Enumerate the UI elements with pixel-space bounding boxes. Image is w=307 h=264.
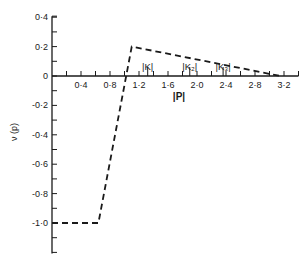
y-tick-label: 0: [43, 71, 48, 81]
x-tick-label: 1·6: [161, 80, 174, 90]
x-tick-label: 2·0: [190, 80, 203, 90]
y-tick-label: -0·6: [32, 159, 48, 169]
x-tick-label: 0·4: [74, 80, 87, 90]
y-tick-label: -0·2: [32, 100, 48, 110]
x-tick-label: 1·2: [132, 80, 145, 90]
y-tick-label: -1·0: [32, 218, 48, 228]
y-tick-label: -0·4: [32, 130, 48, 140]
x-tick-label: 0·8: [103, 80, 116, 90]
annotations: |K||K₂||K₃|: [142, 61, 231, 76]
y-tick-label: 0·4: [35, 12, 48, 22]
data-series: [52, 47, 280, 223]
x-tick-label: 2·4: [219, 80, 232, 90]
y-tick-label: -0·8: [32, 189, 48, 199]
x-tick-label: 3·2: [277, 80, 290, 90]
x-axis-title: |P|: [173, 91, 185, 102]
series-line: [52, 47, 280, 223]
x-tick-label: 2·8: [248, 80, 261, 90]
y-tick-label: 0·2: [35, 42, 48, 52]
axes: 0·40·20-0·2-0·4-0·6-0·8-1·00·40·81·21·62…: [32, 12, 299, 253]
chart: 0·40·20-0·2-0·4-0·6-0·8-1·00·40·81·21·62…: [0, 0, 307, 264]
y-axis-title: ν (p): [9, 123, 19, 141]
